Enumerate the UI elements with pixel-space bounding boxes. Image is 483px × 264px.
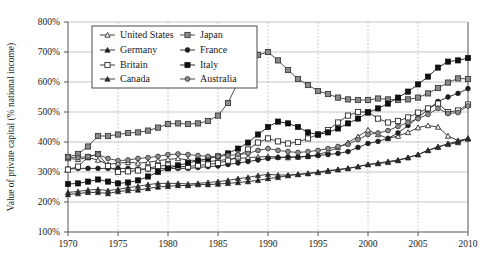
data-point-marker	[216, 154, 221, 159]
data-point-marker	[315, 132, 320, 137]
x-tick-label: 1995	[309, 239, 328, 249]
data-point-marker	[65, 167, 70, 172]
data-point-marker	[295, 76, 300, 81]
data-point-marker	[105, 133, 110, 138]
chart-legend[interactable]: United StatesJapanGermanyFranceBritainIt…	[92, 26, 257, 88]
legend-label: Britain	[120, 59, 148, 70]
data-point-marker	[265, 124, 270, 129]
data-point-marker	[285, 141, 290, 146]
data-point-marker	[125, 169, 130, 174]
data-point-marker	[306, 149, 311, 154]
data-point-marker	[215, 113, 220, 118]
data-point-marker	[275, 119, 280, 124]
data-point-marker	[165, 166, 170, 171]
data-point-marker	[65, 181, 70, 186]
legend-label: Canada	[120, 73, 151, 84]
data-point-marker	[356, 145, 361, 150]
data-point-marker	[456, 91, 461, 96]
data-point-marker	[286, 155, 291, 160]
data-point-marker	[336, 151, 341, 156]
legend-label: United States	[120, 29, 174, 40]
legend-label: Australia	[200, 73, 237, 84]
data-point-marker	[346, 142, 351, 147]
data-point-marker	[225, 100, 230, 105]
data-point-marker	[145, 174, 150, 179]
data-point-marker	[155, 163, 160, 168]
data-point-marker	[195, 163, 200, 168]
y-axis-title: Value of private capital (% national inc…	[6, 43, 17, 211]
data-point-marker	[106, 156, 111, 161]
y-tick-label: 500%	[38, 107, 60, 117]
data-point-marker	[205, 118, 210, 123]
data-point-marker	[246, 151, 251, 156]
data-point-marker	[316, 148, 321, 153]
data-point-marker	[135, 178, 140, 183]
data-point-marker	[395, 118, 400, 123]
y-tick-label: 200%	[38, 197, 60, 207]
data-point-marker	[466, 104, 471, 109]
data-point-marker	[396, 124, 401, 129]
data-point-marker	[185, 32, 190, 37]
data-point-marker	[185, 160, 190, 165]
x-tick-label: 2005	[409, 239, 428, 249]
y-tick-label: 300%	[38, 167, 60, 177]
private-capital-line-chart: 100%200%300%400%500%600%700%800% 1970197…	[0, 0, 483, 264]
data-point-marker	[356, 137, 361, 142]
data-point-marker	[365, 97, 370, 102]
data-point-marker	[175, 121, 180, 126]
data-point-marker	[256, 148, 261, 153]
data-point-marker	[166, 152, 171, 157]
data-point-marker	[95, 177, 100, 182]
data-point-marker	[325, 91, 330, 96]
data-point-marker	[415, 95, 420, 100]
data-point-marker	[246, 159, 251, 164]
data-point-marker	[406, 120, 411, 125]
x-tick-label: 1985	[209, 239, 228, 249]
data-point-marker	[315, 88, 320, 93]
data-point-marker	[405, 115, 410, 120]
y-tick-label: 600%	[38, 77, 60, 87]
data-point-marker	[215, 160, 220, 165]
data-point-marker	[155, 125, 160, 130]
data-point-marker	[146, 155, 151, 160]
data-point-marker	[346, 149, 351, 154]
data-point-marker	[76, 155, 81, 160]
data-point-marker	[405, 89, 410, 94]
data-point-marker	[426, 112, 431, 117]
data-point-marker	[236, 161, 241, 166]
data-point-marker	[266, 146, 271, 151]
data-point-marker	[225, 158, 230, 163]
data-point-marker	[365, 110, 370, 115]
data-point-marker	[145, 166, 150, 171]
legend-label: Italy	[200, 59, 218, 70]
data-point-marker	[115, 181, 120, 186]
data-point-marker	[105, 179, 110, 184]
data-point-marker	[325, 130, 330, 135]
data-point-marker	[465, 76, 470, 81]
data-point-marker	[276, 148, 281, 153]
data-point-marker	[136, 156, 141, 161]
data-point-marker	[156, 154, 161, 159]
data-point-marker	[355, 109, 360, 114]
y-axis-title-text: Value of private capital (% national inc…	[6, 43, 17, 211]
data-point-marker	[135, 130, 140, 135]
data-point-marker	[126, 158, 131, 163]
data-point-marker	[145, 128, 150, 133]
x-tick-label: 1975	[109, 239, 128, 249]
data-point-marker	[176, 152, 181, 157]
data-point-marker	[456, 110, 461, 115]
y-tick-label: 100%	[38, 227, 60, 237]
data-point-marker	[285, 121, 290, 126]
data-point-marker	[435, 65, 440, 70]
data-point-marker	[285, 67, 290, 72]
data-point-marker	[306, 154, 311, 159]
chart-figure: 100%200%300%400%500%600%700%800% 1970197…	[0, 0, 483, 264]
data-point-marker	[196, 153, 201, 158]
data-point-marker	[385, 120, 390, 125]
data-point-marker	[265, 136, 270, 141]
data-point-marker	[335, 95, 340, 100]
data-point-marker	[305, 82, 310, 87]
data-point-marker	[66, 155, 71, 160]
x-axis-tick-labels: 197019751980198519901995200020052010	[59, 239, 478, 249]
data-point-marker	[195, 158, 200, 163]
